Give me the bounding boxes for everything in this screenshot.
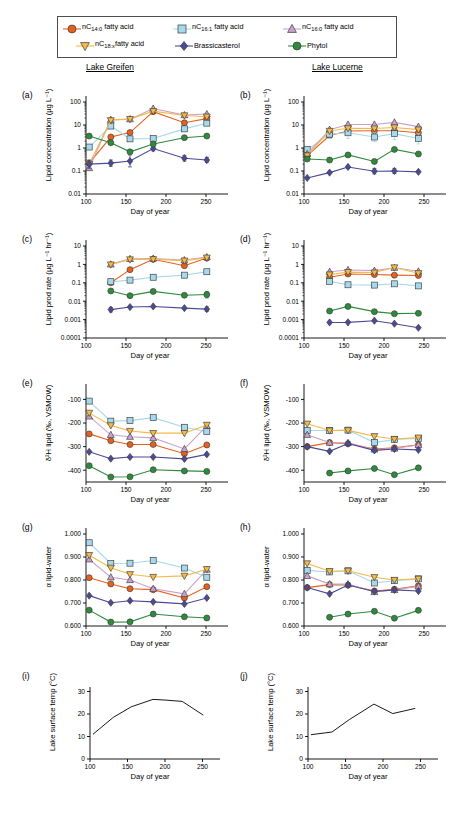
- data-point: [150, 453, 156, 460]
- series-phytol: [86, 607, 210, 625]
- data-point: [415, 310, 421, 316]
- data-point: [182, 600, 188, 607]
- svg-text:100: 100: [80, 342, 91, 349]
- panel-g: (g)0.6000.7000.8000.9001.000100150200250…: [18, 516, 240, 666]
- data-point: [391, 311, 397, 317]
- legend-row-1: nC14:0 fatty acid nC16:1 fatty acid nC16…: [62, 20, 392, 37]
- svg-text:-400: -400: [68, 467, 82, 474]
- svg-text:0.1: 0.1: [72, 167, 81, 174]
- data-point: [127, 597, 133, 604]
- data-point: [345, 468, 351, 474]
- svg-text:-200: -200: [68, 419, 82, 426]
- svg-text:1.000: 1.000: [282, 530, 299, 537]
- series-phytol: [86, 463, 210, 480]
- data-point: [327, 590, 333, 597]
- svg-text:1: 1: [295, 144, 299, 151]
- panel-c: (c)0.00010.0010.010.1110100150200250Lipi…: [18, 228, 240, 378]
- data-point: [392, 320, 398, 327]
- data-point: [327, 470, 333, 476]
- data-point: [416, 168, 422, 175]
- data-point: [204, 594, 210, 601]
- data-point: [127, 303, 133, 310]
- svg-text:200: 200: [159, 763, 170, 770]
- y-axis-title-g: α lipid-water: [44, 506, 53, 628]
- data-point: [108, 438, 114, 444]
- data-point: [204, 292, 210, 298]
- panel-f: (f)-100-200-300-400100150200250δ²H lipid…: [236, 372, 450, 522]
- data-point: [345, 163, 351, 170]
- svg-text:100: 100: [84, 763, 95, 770]
- svg-text:0.001: 0.001: [64, 316, 81, 323]
- x-axis-title-g: Day of year: [76, 639, 224, 648]
- data-point: [86, 540, 92, 546]
- data-point: [371, 466, 377, 472]
- data-point: [204, 133, 210, 139]
- svg-text:200: 200: [160, 198, 171, 205]
- data-point: [86, 607, 92, 613]
- panel-i: (i)0102030100150200250Lake surface temp …: [18, 665, 240, 815]
- svg-text:1: 1: [77, 261, 81, 268]
- x-axis-title-c: Day of year: [76, 351, 224, 360]
- data-point: [345, 319, 351, 326]
- x-axis-title-j: Day of year: [298, 772, 438, 781]
- svg-text:0.1: 0.1: [290, 279, 299, 286]
- svg-text:150: 150: [120, 342, 131, 349]
- triangle-up-marker-icon: [282, 23, 302, 35]
- svg-text:0.001: 0.001: [282, 316, 299, 323]
- x-axis-title-h: Day of year: [294, 639, 442, 648]
- data-point: [127, 560, 133, 566]
- data-point: [108, 134, 114, 140]
- svg-text:250: 250: [200, 342, 211, 349]
- svg-text:10: 10: [74, 242, 82, 249]
- data-point: [391, 472, 397, 478]
- svg-text:250: 250: [197, 763, 208, 770]
- data-point: [181, 292, 187, 298]
- data-point: [150, 303, 156, 310]
- svg-text:100: 100: [298, 198, 309, 205]
- data-point: [327, 157, 333, 163]
- legend-label: Brassicasterol: [194, 42, 240, 49]
- data-point: [345, 611, 351, 617]
- svg-text:100: 100: [302, 763, 313, 770]
- y-axis-title-f: δ²H lipid (‰, VSMOW): [262, 362, 271, 484]
- data-point: [150, 415, 156, 421]
- svg-text:0: 0: [81, 755, 85, 762]
- svg-text:200: 200: [377, 763, 388, 770]
- svg-text:100: 100: [288, 98, 299, 105]
- heading-lake-greifen: Lake Greifen: [86, 62, 134, 72]
- legend-row-2: nC18:xfatty acid Brassicasterol Phytol: [62, 37, 392, 54]
- svg-text:200: 200: [378, 486, 389, 493]
- data-point: [127, 441, 133, 447]
- svg-text:250: 250: [200, 630, 211, 637]
- data-point: [150, 557, 156, 563]
- legend-item-phytol: Phytol: [279, 40, 392, 52]
- heading-lake-lucerne: Lake Lucerne: [312, 62, 363, 72]
- y-axis-title-d: Lipid prod rate (µg L⁻¹ hr⁻¹): [262, 218, 271, 340]
- circle-marker-icon: [287, 40, 307, 52]
- svg-text:10: 10: [78, 733, 86, 740]
- data-point: [372, 317, 378, 324]
- y-axis-title-c: Lipid prod rate (µg L⁻¹ hr⁻¹): [44, 218, 53, 340]
- svg-text:30: 30: [78, 688, 86, 695]
- circle-marker-icon: [62, 23, 82, 35]
- data-point: [86, 553, 93, 559]
- series-nc16-1-fatty-acid: [304, 427, 421, 446]
- svg-text:100: 100: [70, 98, 81, 105]
- data-point: [181, 614, 187, 620]
- svg-text:100: 100: [80, 486, 91, 493]
- square-marker-icon: [172, 23, 192, 35]
- data-point: [204, 584, 210, 590]
- series-nc14-0-fatty-acid: [86, 431, 210, 457]
- svg-text:10: 10: [296, 733, 304, 740]
- data-point: [127, 157, 133, 164]
- data-point: [391, 615, 397, 621]
- svg-text:200: 200: [378, 198, 389, 205]
- svg-text:-400: -400: [286, 467, 300, 474]
- svg-text:100: 100: [80, 630, 91, 637]
- svg-text:0.800: 0.800: [282, 576, 299, 583]
- data-point: [204, 468, 210, 474]
- svg-text:200: 200: [160, 342, 171, 349]
- data-point: [371, 608, 377, 614]
- series-lake-surface-temperature: [311, 704, 415, 735]
- svg-text:0: 0: [299, 755, 303, 762]
